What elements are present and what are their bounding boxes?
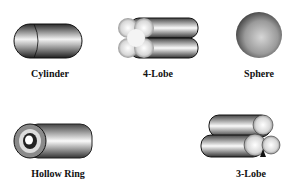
- three-lobe-shape: [199, 113, 281, 165]
- three-lobe-label: 3-Lobe: [206, 168, 294, 179]
- four-lobe-label: 4-Lobe: [113, 68, 203, 79]
- hollow-ring-label: Hollow Ring: [13, 168, 103, 179]
- hollow-ring-shape: [12, 122, 96, 164]
- four-lobe-shape: [116, 16, 202, 64]
- cylinder-shape: [12, 22, 84, 64]
- cylinder-label: Cylinder: [5, 68, 95, 79]
- sphere-shape: [234, 10, 284, 64]
- sphere-label: Sphere: [214, 68, 294, 79]
